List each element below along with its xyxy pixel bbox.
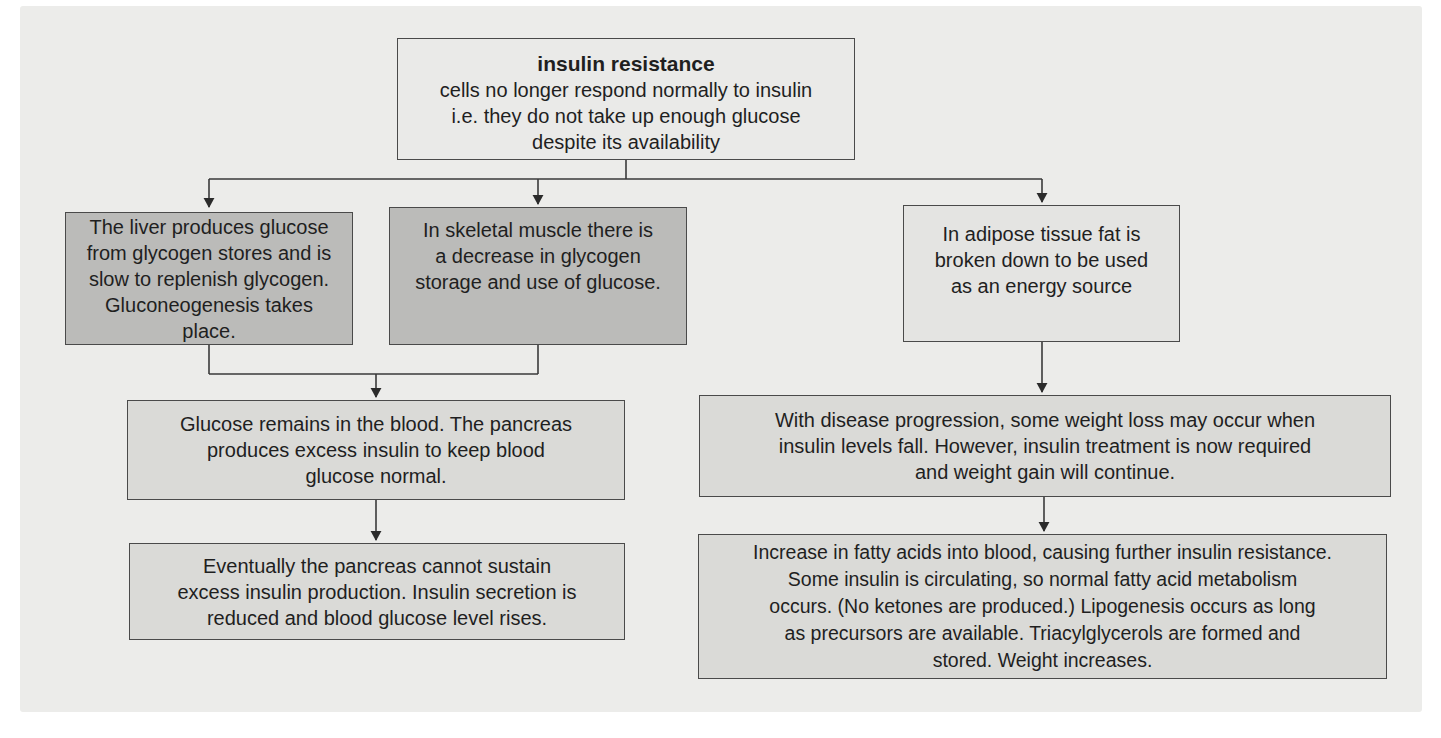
node-glucose-blood: Glucose remains in the blood. The pancre…: [127, 400, 625, 500]
node-weight-loss-text: With disease progression, some weight lo…: [700, 407, 1390, 485]
node-glucose-blood-text: Glucose remains in the blood. The pancre…: [128, 411, 624, 489]
node-adipose: In adipose tissue fat is broken down to …: [903, 205, 1180, 342]
node-pancreas-fail: Eventually the pancreas cannot sustain e…: [129, 543, 625, 640]
node-insulin-resistance-text: cells no longer respond normally to insu…: [398, 77, 854, 155]
node-pancreas-fail-text: Eventually the pancreas cannot sustain e…: [130, 553, 624, 631]
node-insulin-resistance: insulin resistance cells no longer respo…: [397, 38, 855, 160]
node-muscle: In skeletal muscle there is a decrease i…: [389, 207, 687, 345]
flowchart-figure: insulin resistance cells no longer respo…: [0, 0, 1441, 738]
node-fatty-acids: Increase in fatty acids into blood, caus…: [698, 534, 1387, 679]
node-fatty-acids-text: Increase in fatty acids into blood, caus…: [699, 539, 1386, 674]
node-weight-loss: With disease progression, some weight lo…: [699, 395, 1391, 497]
node-liver-text: The liver produces glucose from glycogen…: [66, 214, 352, 344]
node-insulin-resistance-title: insulin resistance: [537, 50, 714, 77]
node-liver: The liver produces glucose from glycogen…: [65, 212, 353, 345]
node-muscle-text: In skeletal muscle there is a decrease i…: [390, 217, 686, 295]
node-adipose-text: In adipose tissue fat is broken down to …: [904, 221, 1179, 299]
